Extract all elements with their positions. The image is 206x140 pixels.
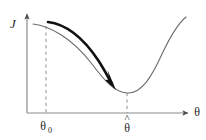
- cost-function-figure: J θ θ 0 ^ θ: [0, 0, 206, 140]
- theta-initial-label: θ 0: [40, 119, 52, 135]
- descent-arrow-shaft: [48, 22, 112, 84]
- theta-initial-symbol: θ: [40, 119, 46, 133]
- theta-optimum-symbol: θ: [124, 121, 130, 135]
- figure-canvas: J θ θ 0 ^ θ: [0, 0, 206, 140]
- cost-axis-label: J: [10, 16, 17, 31]
- theta-initial-subscript: 0: [48, 126, 52, 135]
- theta-optimum-label: ^ θ: [124, 112, 130, 135]
- parameter-axis-label: θ: [194, 105, 200, 119]
